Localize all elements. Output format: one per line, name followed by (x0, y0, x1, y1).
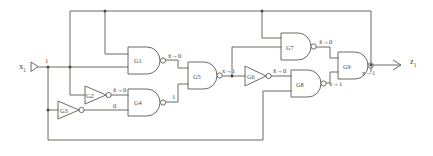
gate-label-G4: G4 (134, 99, 143, 106)
gate-label-G7: G7 (286, 44, 295, 51)
input-port-x1 (31, 62, 38, 72)
junction-x1-node (47, 66, 50, 69)
junction-top-rail-g1 (104, 10, 107, 13)
junction-g5-node (231, 75, 234, 78)
junction-g3-input-node (47, 109, 50, 112)
signal-label-g5-out: x→1 (222, 67, 235, 74)
gate-G7-bubble (311, 44, 316, 49)
gate-G1-bubble (160, 58, 165, 63)
junction-layer (47, 10, 373, 112)
gate-G6-bubble (266, 73, 271, 78)
junction-rail70-node (69, 66, 72, 69)
signal-label-g4-out: 1 (172, 93, 175, 100)
wire-top-rail-to-g7 (262, 11, 281, 38)
gate-G8-bubble (321, 81, 326, 86)
junction-g9-out-node (370, 64, 373, 67)
junction-top-rail-g7 (261, 10, 264, 13)
signal-label-g8-out: x→1 (329, 80, 342, 87)
gate-label-G6: G6 (247, 73, 255, 80)
port-label-x1: x1 (19, 61, 26, 73)
signal-label-g9-out: x→1 (362, 69, 375, 76)
gate-label-G5: G5 (193, 73, 201, 80)
gate-label-G9: G9 (343, 63, 351, 70)
port-x-sub: 1 (23, 67, 26, 73)
wire-g7-to-g9 (314, 47, 338, 58)
signal-label-g7-out: x̄→0 (319, 38, 333, 45)
port-label-z1: z1 (410, 56, 417, 68)
gate-G1-body (128, 47, 160, 74)
port-z-sub: 1 (414, 62, 417, 68)
signal-label-input-node: 1 (45, 57, 48, 64)
circuit-schematic: G1 G2 G3 G4 G5 G6 G7 G8 G9 1 x̄→0 x̄→0 0… (0, 0, 433, 156)
gate-G3-bubble (79, 107, 84, 112)
gate-G2-bubble (106, 92, 111, 97)
gate-label-G3: G3 (60, 107, 68, 114)
gate-label-G2: G2 (86, 92, 94, 99)
gate-G4-body (128, 89, 160, 116)
wire-bottom-feedback-rail (48, 91, 291, 140)
signal-label-g1-out: x̄→0 (168, 52, 182, 59)
gate-label-G1: G1 (134, 57, 142, 64)
wire-top-rail-to-g1 (105, 11, 128, 54)
signal-label-g2-out: x̄→0 (113, 86, 127, 93)
circuit-diagram-canvas: G1 G2 G3 G4 G5 G6 G7 G8 G9 1 x̄→0 x̄→0 0… (0, 0, 433, 156)
signal-label-g6-out: x̄→0 (273, 67, 287, 74)
gate-G4-bubble (160, 100, 165, 105)
input-arrow-icon (31, 62, 38, 72)
wire-rail70-to-g2 (70, 67, 85, 95)
signal-label-g3-out: 0 (113, 102, 117, 109)
gate-label-G8: G8 (296, 81, 304, 88)
